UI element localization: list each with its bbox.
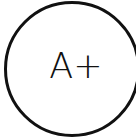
grade-label: A+	[50, 44, 102, 88]
